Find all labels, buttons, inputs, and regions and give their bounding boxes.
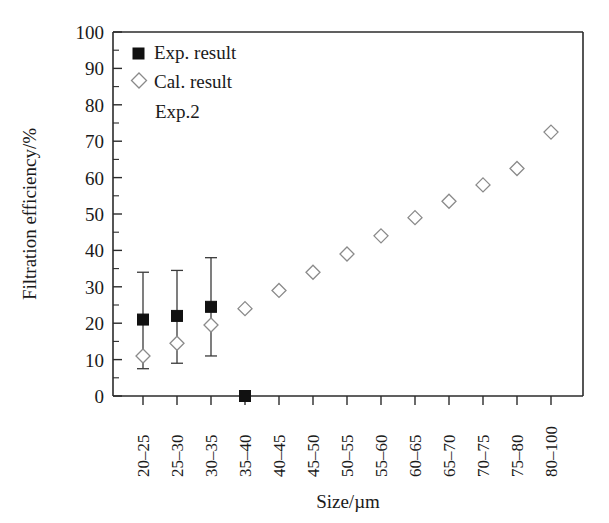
x-tick-label: 50–55 xyxy=(338,435,357,478)
y-tick-label: 100 xyxy=(76,22,105,43)
y-tick-label: 0 xyxy=(95,386,105,407)
y-axis-title: Filtration efficiency/% xyxy=(19,128,40,300)
x-axis-ticks xyxy=(143,396,551,405)
data-point-cal-result xyxy=(374,229,388,243)
data-point-cal-result xyxy=(476,178,490,192)
x-tick-label: 30–35 xyxy=(202,435,221,478)
legend-label-cal-result: Cal. result xyxy=(154,71,233,92)
chart-canvas: 0102030405060708090100 20–2525–3030–3535… xyxy=(0,0,609,523)
y-tick-label: 40 xyxy=(85,240,104,261)
x-tick-label: 35–40 xyxy=(236,435,255,478)
y-tick-label: 20 xyxy=(85,313,104,334)
legend-label-exp-result: Exp. result xyxy=(154,42,237,63)
data-point-exp-result xyxy=(240,391,251,402)
y-axis-ticks xyxy=(113,32,122,396)
data-point-cal-result xyxy=(442,194,456,208)
x-tick-label: 45–50 xyxy=(304,435,323,478)
legend-note-exp2: Exp.2 xyxy=(155,101,200,122)
series-cal-result xyxy=(136,125,558,363)
legend-marker-exp-result xyxy=(133,48,144,59)
data-point-cal-result xyxy=(204,318,218,332)
x-tick-label: 25–30 xyxy=(168,435,187,478)
series-exp-result xyxy=(137,258,251,402)
data-point-exp-result xyxy=(172,310,183,321)
x-tick-label: 65–70 xyxy=(440,435,459,478)
data-point-cal-result xyxy=(306,265,320,279)
x-axis-title: Size/µm xyxy=(316,491,380,512)
legend-marker-cal-result xyxy=(132,73,147,88)
x-tick-label: 20–25 xyxy=(134,435,153,478)
filtration-efficiency-chart: 0102030405060708090100 20–2525–3030–3535… xyxy=(0,0,609,523)
x-tick-label: 70–75 xyxy=(474,435,493,478)
y-tick-label: 60 xyxy=(85,168,104,189)
data-point-cal-result xyxy=(544,125,558,139)
y-tick-label: 90 xyxy=(85,58,104,79)
x-tick-label: 55–60 xyxy=(372,435,391,478)
data-point-exp-result xyxy=(206,301,217,312)
data-point-cal-result xyxy=(170,336,184,350)
y-tick-label: 30 xyxy=(85,277,104,298)
data-point-cal-result xyxy=(340,247,354,261)
y-axis-tick-labels: 0102030405060708090100 xyxy=(76,22,105,407)
data-point-cal-result xyxy=(136,349,150,363)
y-tick-label: 10 xyxy=(85,350,104,371)
data-point-cal-result xyxy=(272,283,286,297)
data-point-exp-result xyxy=(138,314,149,325)
x-tick-label: 80–100 xyxy=(542,426,561,477)
data-point-cal-result xyxy=(408,211,422,225)
x-tick-label: 60–65 xyxy=(406,435,425,478)
x-tick-label: 75–80 xyxy=(508,435,527,478)
data-point-cal-result xyxy=(510,162,524,176)
data-point-cal-result xyxy=(238,302,252,316)
y-tick-label: 70 xyxy=(85,131,104,152)
chart-legend: Exp. result Cal. result Exp.2 xyxy=(132,42,238,122)
x-tick-label: 40–45 xyxy=(270,435,289,478)
y-tick-label: 50 xyxy=(85,204,104,225)
y-tick-label: 80 xyxy=(85,95,104,116)
x-axis-tick-labels: 20–2525–3030–3535–4040–4545–5050–5555–60… xyxy=(134,426,561,477)
